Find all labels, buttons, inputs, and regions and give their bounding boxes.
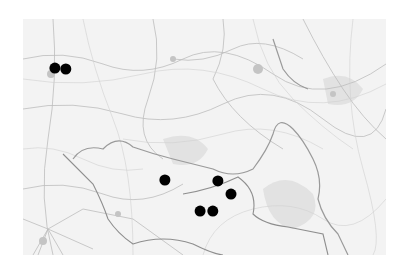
road xyxy=(123,129,323,149)
road xyxy=(173,43,303,60)
forest-area xyxy=(163,136,208,165)
map-marker-6[interactable] xyxy=(195,206,206,217)
map-marker-3[interactable] xyxy=(159,175,170,186)
town xyxy=(170,56,176,62)
road xyxy=(23,148,143,171)
road xyxy=(23,184,183,200)
map-marker-5[interactable] xyxy=(226,189,237,200)
map-canvas[interactable] xyxy=(23,19,386,255)
road xyxy=(44,19,55,255)
road xyxy=(38,209,183,255)
town xyxy=(39,237,47,245)
road xyxy=(23,219,93,255)
map-marker-7[interactable] xyxy=(207,206,218,217)
forest-area xyxy=(263,180,316,229)
town xyxy=(253,64,263,74)
forest-areas xyxy=(163,76,363,229)
markers xyxy=(49,63,236,217)
map-marker-1[interactable] xyxy=(49,63,60,74)
map[interactable] xyxy=(23,19,386,255)
town xyxy=(115,211,121,217)
road xyxy=(143,19,163,159)
map-marker-2[interactable] xyxy=(60,64,71,75)
map-marker-4[interactable] xyxy=(212,175,223,186)
road-network xyxy=(23,19,386,255)
town xyxy=(330,91,336,97)
